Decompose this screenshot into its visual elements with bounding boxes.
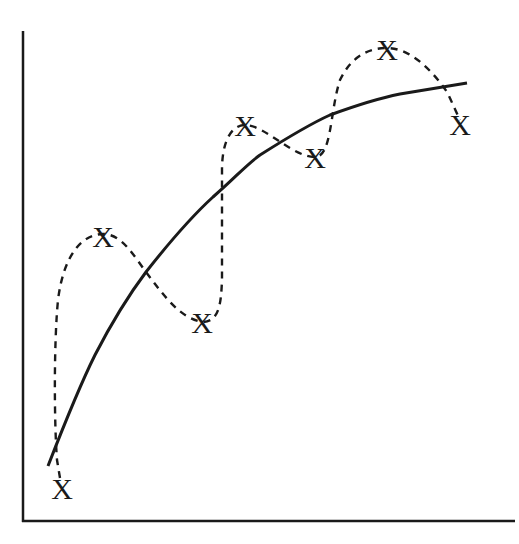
- chart: X X X X X X X: [0, 0, 519, 544]
- marker-x-icon: X: [51, 472, 73, 505]
- marker-x-icon: X: [234, 109, 256, 142]
- marker-x-icon: X: [304, 141, 326, 174]
- marker-x-icon: X: [376, 33, 398, 66]
- data-markers: X X X X X X X: [51, 33, 471, 505]
- marker-x-icon: X: [449, 108, 471, 141]
- dashed-observation-path: [55, 48, 460, 478]
- solid-trend-curve: [48, 83, 467, 466]
- marker-x-icon: X: [92, 220, 114, 253]
- marker-x-icon: X: [191, 306, 213, 339]
